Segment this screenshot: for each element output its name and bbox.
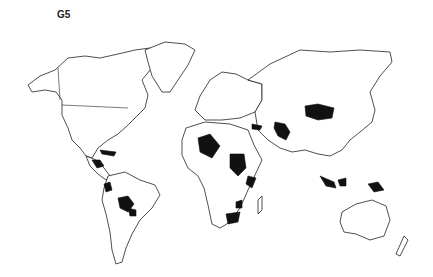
land-greenland: [145, 42, 195, 92]
land-asia: [248, 50, 392, 156]
land-australia: [340, 200, 390, 240]
region-papua-new-guinea: [368, 182, 384, 192]
land-africa: [182, 122, 262, 228]
region-indonesia: [320, 176, 346, 188]
land-new-zealand: [396, 236, 408, 256]
region-south-africa: [226, 212, 240, 224]
region-caribbean: [100, 150, 116, 156]
land-madagascar: [258, 196, 262, 214]
world-map: [0, 0, 433, 277]
